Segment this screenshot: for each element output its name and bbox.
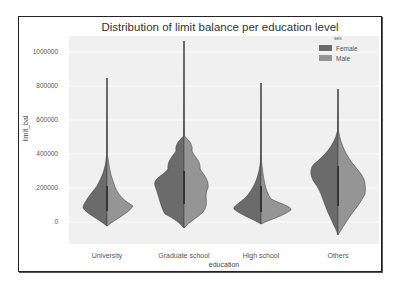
xtick-university: University xyxy=(67,252,147,259)
y-axis-label: limit_bal xyxy=(22,116,29,142)
plot-area xyxy=(69,36,379,244)
legend-item-male: Male xyxy=(319,53,358,63)
legend-title: sex xyxy=(334,35,358,41)
xtick-high-school: High school xyxy=(221,252,301,259)
legend: sex Female Male xyxy=(319,35,358,63)
legend-swatch-male xyxy=(319,55,332,61)
chart-title: Distribution of limit balance per educat… xyxy=(19,21,381,33)
violin-university xyxy=(83,78,133,226)
legend-label-male: Male xyxy=(336,55,350,62)
chart-frame: Distribution of limit balance per educat… xyxy=(18,16,382,272)
ytick-800000: 800000 xyxy=(18,82,58,89)
ytick-200000: 200000 xyxy=(18,184,58,191)
legend-item-female: Female xyxy=(319,43,358,53)
ytick-400000: 400000 xyxy=(18,150,58,157)
xtick-others: Others xyxy=(298,252,378,259)
legend-label-female: Female xyxy=(336,45,358,52)
x-axis-label: education xyxy=(184,261,264,268)
violin-others xyxy=(311,89,366,235)
legend-swatch-female xyxy=(319,45,332,51)
violin-high-school xyxy=(234,83,291,224)
violin-graduate-school xyxy=(155,41,208,228)
ytick-0: 0 xyxy=(18,218,58,225)
xtick-graduate-school: Graduate school xyxy=(144,252,224,259)
ytick-1000000: 1000000 xyxy=(18,48,58,55)
violin-plot xyxy=(69,36,379,244)
